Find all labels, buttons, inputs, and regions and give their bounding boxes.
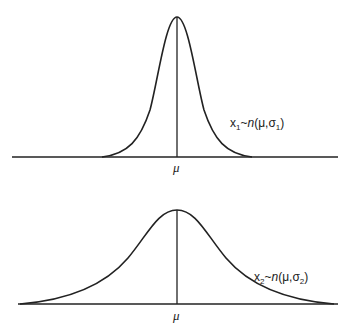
bottom-distribution-label: x2~n(μ,σ2)	[254, 270, 308, 286]
bottom-mu-label: μ	[172, 308, 180, 323]
top-panel: μ x1~n(μ,σ1)	[12, 17, 338, 175]
normal-distributions-diagram: μ x1~n(μ,σ1) μ x2~n(μ,σ2)	[0, 0, 352, 333]
bottom-panel: μ x2~n(μ,σ2)	[18, 210, 338, 323]
top-distribution-label: x1~n(μ,σ1)	[230, 116, 284, 132]
top-mu-label: μ	[172, 160, 180, 175]
